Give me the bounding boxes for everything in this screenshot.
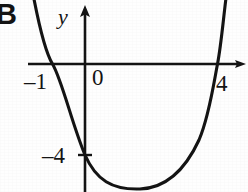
x-intercept-right-label: 4 <box>216 72 228 95</box>
y-intercept-label: –4 <box>42 144 65 167</box>
x-axis <box>28 60 246 68</box>
graph-canvas <box>0 0 248 192</box>
parabola-figure: B y 0 –1 4 –4 <box>0 0 248 192</box>
y-axis-label: y <box>58 6 68 28</box>
x-intercept-left-label: –1 <box>24 70 47 93</box>
problem-number-label: B <box>0 0 16 29</box>
origin-label: 0 <box>92 66 104 89</box>
